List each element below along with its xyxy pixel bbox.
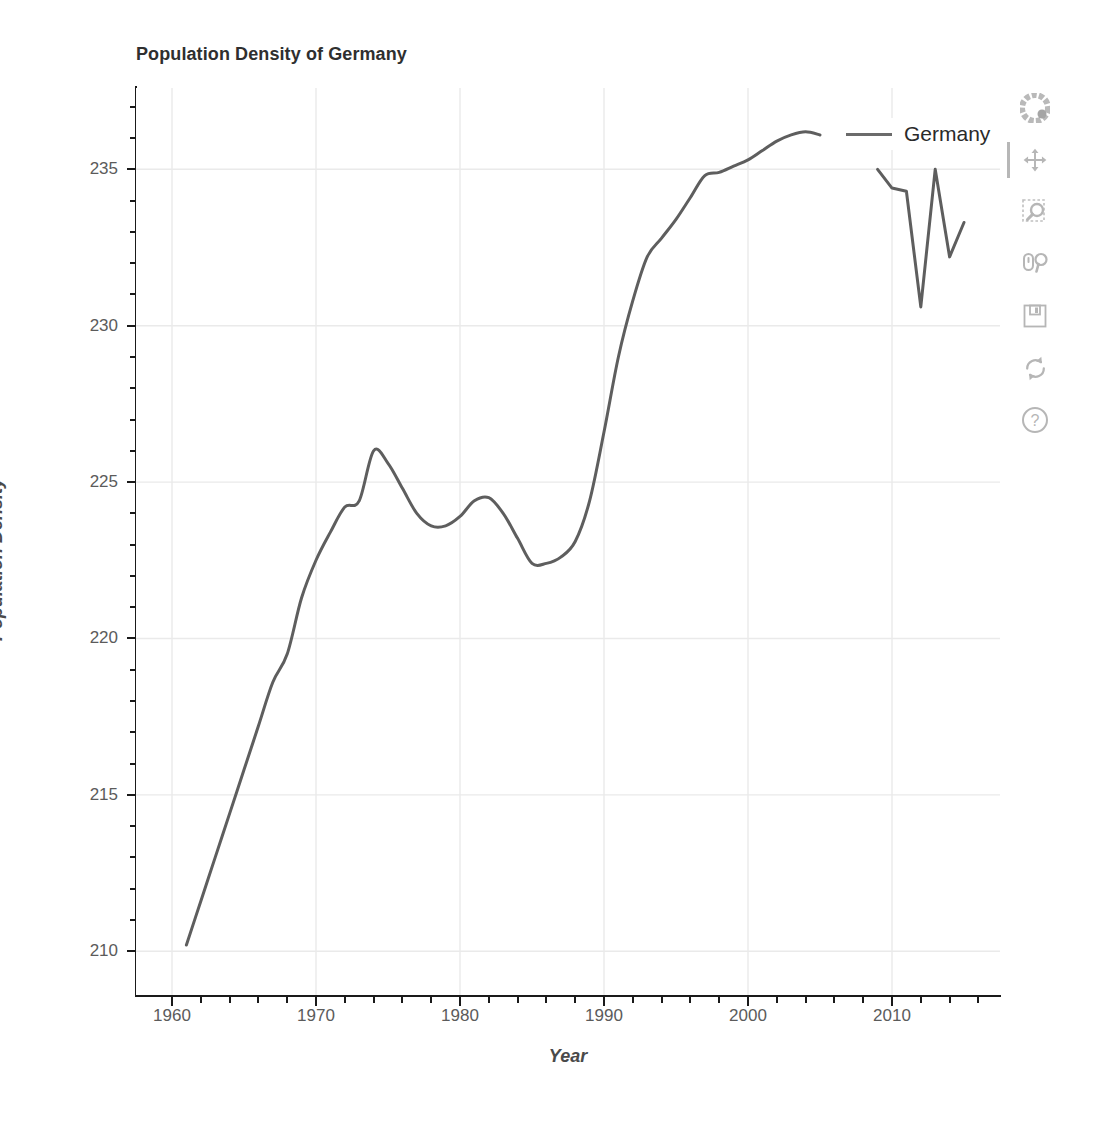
y-tick-minor — [130, 106, 136, 108]
x-tick-minor — [862, 997, 864, 1003]
y-tick-major — [127, 481, 136, 483]
y-tick-minor — [130, 544, 136, 546]
x-tick-minor — [344, 997, 346, 1003]
x-tick-major — [315, 997, 317, 1006]
plot-toolbar[interactable]: ? — [1004, 86, 1066, 450]
x-tick-minor — [488, 997, 490, 1003]
y-tick-major — [127, 168, 136, 170]
y-tick-minor — [130, 262, 136, 264]
x-tick-minor — [776, 997, 778, 1003]
legend[interactable]: Germany — [838, 118, 998, 150]
y-tick-minor — [130, 825, 136, 827]
y-tick-label: 210 — [0, 941, 118, 961]
y-tick-label: 230 — [0, 316, 118, 336]
y-tick-label: 220 — [0, 628, 118, 648]
x-tick-minor — [430, 997, 432, 1003]
y-tick-minor — [130, 669, 136, 671]
x-tick-minor — [545, 997, 547, 1003]
y-tick-minor — [130, 293, 136, 295]
y-tick-minor — [130, 356, 136, 358]
y-tick-minor — [130, 387, 136, 389]
legend-swatch-germany — [846, 133, 892, 136]
y-tick-label: 235 — [0, 159, 118, 179]
wheel-zoom-icon[interactable] — [1013, 242, 1057, 286]
x-tick-minor — [373, 997, 375, 1003]
x-tick-minor — [632, 997, 634, 1003]
y-tick-minor — [130, 919, 136, 921]
x-tick-label: 1960 — [132, 1006, 212, 1026]
x-tick-label: 2000 — [708, 1006, 788, 1026]
x-tick-minor — [718, 997, 720, 1003]
x-tick-minor — [574, 997, 576, 1003]
save-icon[interactable] — [1013, 294, 1057, 338]
page-title: Population Density of Germany — [136, 44, 407, 65]
x-tick-major — [603, 997, 605, 1006]
x-tick-major — [459, 997, 461, 1006]
x-tick-major — [171, 997, 173, 1006]
x-tick-major — [891, 997, 893, 1006]
y-tick-major — [127, 637, 136, 639]
y-tick-minor — [130, 606, 136, 608]
chart-page: Population Density of Germany 2102152202… — [0, 0, 1097, 1121]
y-tick-minor — [130, 450, 136, 452]
help-icon[interactable]: ? — [1013, 398, 1057, 442]
x-axis-line — [136, 995, 1001, 997]
x-tick-minor — [517, 997, 519, 1003]
x-tick-minor — [661, 997, 663, 1003]
y-axis-title: Population Density — [0, 477, 7, 640]
data-series-layer — [136, 88, 1000, 995]
x-tick-minor — [833, 997, 835, 1003]
y-tick-major — [127, 950, 136, 952]
y-tick-minor — [130, 700, 136, 702]
y-tick-minor — [130, 856, 136, 858]
y-tick-minor — [130, 888, 136, 890]
y-tick-major — [127, 794, 136, 796]
x-tick-label: 2010 — [852, 1006, 932, 1026]
legend-label-germany: Germany — [904, 122, 990, 146]
x-tick-major — [747, 997, 749, 1006]
y-tick-minor — [130, 731, 136, 733]
plot-area[interactable] — [136, 88, 1000, 995]
y-tick-label: 225 — [0, 472, 118, 492]
x-tick-minor — [257, 997, 259, 1003]
x-tick-minor — [200, 997, 202, 1003]
y-tick-major — [127, 325, 136, 327]
x-tick-minor — [401, 997, 403, 1003]
x-tick-minor — [805, 997, 807, 1003]
x-tick-minor — [286, 997, 288, 1003]
x-tick-minor — [689, 997, 691, 1003]
pan-icon[interactable] — [1013, 138, 1057, 182]
y-tick-minor — [130, 575, 136, 577]
x-tick-minor — [977, 997, 979, 1003]
bokeh-logo-icon[interactable] — [1013, 86, 1057, 130]
y-tick-minor — [130, 200, 136, 202]
x-tick-label: 1980 — [420, 1006, 500, 1026]
reset-icon[interactable] — [1013, 346, 1057, 390]
svg-text:?: ? — [1031, 412, 1040, 429]
y-tick-minor — [130, 137, 136, 139]
series-line — [186, 132, 820, 945]
x-tick-minor — [920, 997, 922, 1003]
x-tick-minor — [229, 997, 231, 1003]
y-tick-label: 215 — [0, 785, 118, 805]
y-tick-minor — [130, 512, 136, 514]
y-tick-minor — [130, 419, 136, 421]
x-tick-label: 1990 — [564, 1006, 644, 1026]
x-axis-title: Year — [549, 1046, 587, 1067]
box-zoom-icon[interactable] — [1013, 190, 1057, 234]
y-tick-minor — [130, 231, 136, 233]
y-tick-minor — [130, 763, 136, 765]
x-tick-label: 1970 — [276, 1006, 356, 1026]
series-line — [878, 169, 964, 307]
x-tick-minor — [949, 997, 951, 1003]
